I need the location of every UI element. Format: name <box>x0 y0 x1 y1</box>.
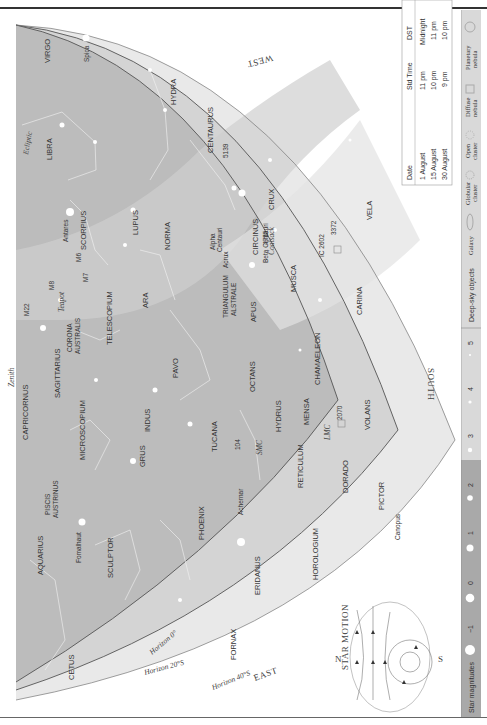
east-label: EAST <box>252 665 278 683</box>
svg-text:GRUS: GRUS <box>138 445 147 467</box>
svg-text:INDUS: INDUS <box>143 409 152 432</box>
svg-text:Acrux: Acrux <box>222 251 229 268</box>
svg-text:Fomalhaut: Fomalhaut <box>75 532 82 563</box>
svg-text:Globular: Globular <box>464 181 471 205</box>
svg-text:PICTOR: PICTOR <box>377 481 386 510</box>
svg-text:CRUX: CRUX <box>267 189 276 210</box>
svg-text:MUSCA: MUSCA <box>289 265 298 292</box>
svg-text:5139: 5139 <box>222 143 229 158</box>
svg-text:PISCIS: PISCIS <box>44 493 51 515</box>
svg-text:CORONA: CORONA <box>66 323 73 352</box>
svg-text:DORADO: DORADO <box>341 460 350 493</box>
svg-text:cluster: cluster <box>471 142 478 160</box>
svg-text:DST: DST <box>406 25 413 40</box>
svg-text:2070: 2070 <box>336 405 343 420</box>
svg-text:Std Time: Std Time <box>406 62 413 90</box>
svg-text:HYDRUS: HYDRUS <box>274 400 283 432</box>
svg-text:CARINA: CARINA <box>355 287 364 315</box>
svg-text:PHOENIX: PHOENIX <box>197 506 206 540</box>
svg-text:10 pm: 10 pm <box>441 20 449 40</box>
svg-text:M7: M7 <box>82 273 89 282</box>
svg-text:ALSTRALE: ALSTRALE <box>230 282 237 316</box>
svg-text:Midnight: Midnight <box>419 18 427 45</box>
svg-text:Galaxy: Galaxy <box>467 235 474 255</box>
svg-text:nebula: nebula <box>471 51 478 68</box>
svg-text:30 August: 30 August <box>441 149 449 180</box>
svg-text:Diffuse: Diffuse <box>464 98 471 117</box>
svg-text:VOLANS: VOLANS <box>363 400 372 430</box>
svg-text:S: S <box>438 654 444 664</box>
svg-text:M8: M8 <box>48 281 55 290</box>
svg-text:NORMA: NORMA <box>163 222 172 250</box>
svg-text:CIRCINUS: CIRCINUS <box>251 219 260 255</box>
svg-text:IC 2602: IC 2602 <box>318 234 325 257</box>
svg-text:2: 2 <box>467 483 474 487</box>
svg-text:9 pm: 9 pm <box>441 71 449 87</box>
svg-text:OCTANS: OCTANS <box>248 361 257 392</box>
svg-text:CENTAURUS: CENTAURUS <box>206 107 215 153</box>
zenith-label: Zenith <box>7 368 16 387</box>
svg-text:10 pm: 10 pm <box>430 70 438 90</box>
svg-text:ERIDANUS: ERIDANUS <box>253 556 262 595</box>
time-table: Date Std Time DST 1 August 11 pm Midnigh… <box>402 0 452 185</box>
horizon-40s-label: Horizon 40°S <box>209 668 251 692</box>
svg-text:MENSA: MENSA <box>302 398 311 425</box>
svg-text:Star magnitudes: Star magnitudes <box>468 662 476 713</box>
south-label: SOUTH <box>426 368 436 401</box>
svg-text:5: 5 <box>467 341 474 345</box>
svg-text:3: 3 <box>467 434 474 438</box>
svg-text:−1: −1 <box>467 625 474 633</box>
svg-text:1: 1 <box>467 531 474 535</box>
svg-text:CHAMAELEON: CHAMAELEON <box>313 332 322 385</box>
svg-text:Planetary: Planetary <box>464 45 471 70</box>
svg-text:M22: M22 <box>23 303 30 316</box>
svg-text:AUSTRINUS: AUSTRINUS <box>52 480 59 518</box>
svg-text:M6: M6 <box>75 253 82 262</box>
svg-text:HYDRA: HYDRA <box>169 79 178 105</box>
svg-text:HOROLOGIUM: HOROLOGIUM <box>311 528 320 580</box>
svg-text:APUS: APUS <box>249 302 258 322</box>
svg-text:0: 0 <box>467 581 474 585</box>
svg-text:ARA: ARA <box>141 293 150 308</box>
svg-text:SAGITTARIUS: SAGITTARIUS <box>53 349 62 398</box>
svg-text:SCORPIUS: SCORPIUS <box>79 211 88 250</box>
svg-text:VELA: VELA <box>365 201 374 220</box>
svg-text:TELESCOPIUM: TELESCOPIUM <box>105 291 114 345</box>
svg-text:nebula: nebula <box>471 100 478 117</box>
svg-text:TUCANA: TUCANA <box>210 421 219 452</box>
svg-text:LMC: LMC <box>323 424 332 441</box>
svg-text:FORNAX: FORNAX <box>229 629 238 660</box>
svg-text:AUSTRALIS: AUSTRALIS <box>74 317 81 354</box>
svg-text:Deep-sky objects: Deep-sky objects <box>468 268 476 322</box>
svg-text:Date: Date <box>406 165 413 180</box>
svg-text:Antares: Antares <box>62 219 69 242</box>
svg-text:Open: Open <box>464 143 471 158</box>
svg-text:11 pm: 11 pm <box>419 71 427 90</box>
svg-text:Achernar: Achernar <box>237 488 244 515</box>
west-label: WEST <box>246 53 274 70</box>
svg-text:104: 104 <box>234 439 241 450</box>
svg-text:SMC: SMC <box>255 439 264 455</box>
star-chart: VIRGO LIBRA HYDRA CENTAURUS SCORPIUS LUP… <box>0 0 487 725</box>
svg-text:MICROSCOPIUM: MICROSCOPIUM <box>78 400 87 460</box>
svg-text:VIRGO: VIRGO <box>43 39 52 63</box>
svg-text:LUPUS: LUPUS <box>131 210 140 235</box>
svg-text:AQUARIUS: AQUARIUS <box>36 536 45 575</box>
star-motion-diagram: STAR MOTION N S <box>335 602 444 712</box>
svg-text:SCULPTOR: SCULPTOR <box>106 537 115 578</box>
svg-text:CETUS: CETUS <box>67 655 76 680</box>
svg-text:11 pm: 11 pm <box>430 21 438 40</box>
svg-text:3372: 3372 <box>330 220 337 235</box>
svg-text:Canopus: Canopus <box>394 513 402 540</box>
svg-text:Coalsack: Coalsack <box>267 226 276 255</box>
svg-text:cluster: cluster <box>471 184 478 202</box>
svg-text:LIBRA: LIBRA <box>45 138 54 160</box>
svg-text:4: 4 <box>467 387 474 391</box>
svg-text:15 August: 15 August <box>430 149 438 180</box>
svg-text:Spica: Spica <box>83 45 91 62</box>
svg-text:PAVO: PAVO <box>171 358 180 378</box>
legend-bar: Star magnitudes −1 0 1 2 3 4 5 Deep-sky … <box>461 10 481 717</box>
svg-text:Teapot: Teapot <box>57 291 66 312</box>
svg-text:1 August: 1 August <box>419 153 427 180</box>
svg-text:TRIANGULUM: TRIANGULUM <box>222 275 229 318</box>
